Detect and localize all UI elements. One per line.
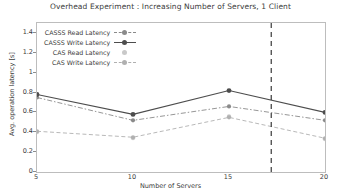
legend-item-label: CAS Write Latency: [52, 59, 110, 66]
chart-legend: CASSS Read LatencyCASSS Write LatencyCAS…: [41, 25, 139, 70]
series-line: [37, 98, 325, 121]
x-tick-label: 5: [34, 173, 38, 181]
y-tick-label: 0.8: [0, 88, 33, 96]
legend-sample-swatch: [114, 47, 136, 57]
data-point-marker: [131, 135, 135, 139]
legend-item: CASSS Write Latency: [44, 37, 136, 47]
legend-item-label: CASSS Write Latency: [44, 39, 110, 46]
legend-marker-icon: [122, 60, 127, 65]
data-point-marker: [323, 118, 325, 122]
y-tick-label: 0.2: [0, 147, 33, 155]
legend-item-label: CASSS Read Latency: [45, 29, 110, 36]
legend-marker-icon: [122, 40, 127, 45]
y-tick-label: 0.6: [0, 107, 33, 115]
data-point-marker: [37, 92, 39, 97]
x-axis-label: Number of Servers: [0, 182, 341, 190]
data-point-marker: [323, 110, 325, 115]
series-line: [37, 91, 325, 115]
x-tick-label: 20: [320, 173, 328, 181]
data-point-marker: [227, 104, 231, 108]
y-tick-label: 1.4: [0, 28, 33, 36]
legend-marker-icon: [122, 50, 127, 55]
legend-item: CAS Read Latency: [44, 47, 136, 57]
data-point-marker: [131, 118, 135, 122]
data-point-marker: [131, 112, 136, 117]
legend-sample-swatch: [114, 57, 136, 67]
legend-item: CAS Write Latency: [44, 57, 136, 67]
legend-sample-swatch: [114, 37, 136, 47]
chart-figure: Overhead Experiment : Increasing Number …: [0, 0, 341, 193]
data-point-marker: [227, 115, 231, 119]
legend-item: CASSS Read Latency: [44, 27, 136, 37]
data-point-marker: [227, 88, 232, 93]
y-tick-label: 1: [0, 68, 33, 76]
legend-sample-swatch: [114, 27, 136, 37]
x-tick-label: 15: [224, 173, 232, 181]
y-tick-label: 0.4: [0, 127, 33, 135]
series-line: [37, 117, 325, 138]
x-tick-label: 10: [128, 173, 136, 181]
legend-item-label: CAS Read Latency: [53, 49, 110, 56]
y-tick-label: 0: [0, 167, 33, 175]
chart-title: Overhead Experiment : Increasing Number …: [0, 2, 341, 11]
y-tick-label: 1.2: [0, 48, 33, 56]
legend-marker-icon: [122, 30, 127, 35]
